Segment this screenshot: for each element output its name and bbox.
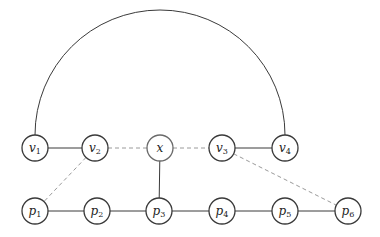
graph-canvas — [0, 0, 380, 237]
node-label-p4: p4 — [209, 198, 235, 224]
node-label-subscript: 6 — [349, 210, 354, 219]
node-label-v2: v2 — [82, 135, 108, 161]
edge-v2-p1 — [44, 157, 86, 201]
node-label-base: v — [216, 141, 223, 155]
node-label-v1: v1 — [22, 135, 48, 161]
node-label-subscript: 5 — [286, 210, 291, 219]
node-label-p1: p1 — [22, 198, 48, 224]
node-label-base: v — [29, 141, 36, 155]
node-label-subscript: 1 — [36, 210, 41, 219]
node-label-p5: p5 — [272, 198, 298, 224]
node-label-subscript: 1 — [36, 147, 41, 156]
node-label-base: v — [279, 141, 286, 155]
node-label-p2: p2 — [84, 198, 110, 224]
node-label-subscript: 3 — [223, 147, 228, 156]
graph-diagram: v1v2xv3v4p1p2p3p4p5p6 — [0, 0, 380, 237]
node-label-subscript: 2 — [96, 147, 101, 156]
node-label-p6: p6 — [335, 198, 361, 224]
node-label-subscript: 4 — [223, 210, 228, 219]
node-label-base: x — [157, 141, 164, 155]
node-label-v4: v4 — [272, 135, 298, 161]
node-label-subscript: 4 — [286, 147, 291, 156]
node-label-subscript: 3 — [160, 210, 165, 219]
node-label-base: v — [89, 141, 96, 155]
node-label-v3: v3 — [209, 135, 235, 161]
arc-v1-v4 — [35, 10, 285, 135]
node-label-p3: p3 — [146, 198, 172, 224]
edge-x-p3 — [159, 161, 160, 198]
node-label-x: x — [147, 135, 173, 161]
node-label-subscript: 2 — [98, 210, 103, 219]
